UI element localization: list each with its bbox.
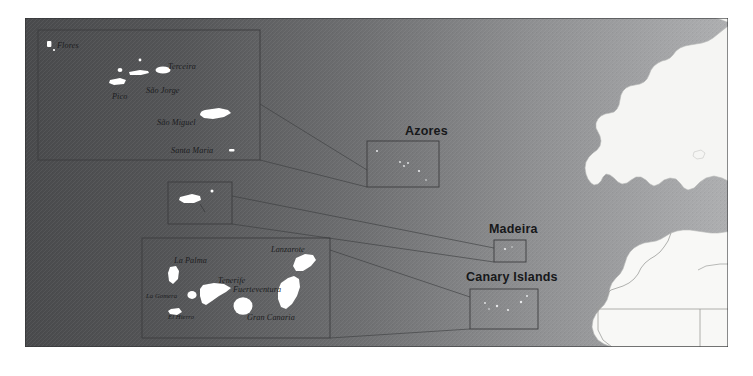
island-la-gomera <box>187 291 196 299</box>
locator-terceira <box>407 162 409 164</box>
locator-gran-canaria <box>507 309 509 311</box>
locator-santa-maria <box>425 179 427 181</box>
locator-graciosa <box>399 161 401 163</box>
locator-fuerteventura <box>520 301 522 303</box>
island-terceira <box>156 66 171 73</box>
island-santa-maria <box>229 149 235 151</box>
map-canvas <box>0 0 753 376</box>
island-graciosa <box>139 59 142 62</box>
island-corvo <box>53 49 55 51</box>
island-gran-canaria <box>234 297 253 315</box>
locator-la-palma <box>484 302 486 304</box>
locator-la-gomera <box>488 308 490 310</box>
macaronesia-map: Azores Madeira Canary Islands Flores Ter… <box>0 0 753 376</box>
locator-flores <box>376 150 378 152</box>
island-flores <box>47 41 51 47</box>
locator-sao-jorge <box>403 165 405 167</box>
locator-sao-miguel <box>418 170 420 172</box>
island-faial <box>118 68 123 72</box>
locator-tenerife <box>496 305 498 307</box>
locator-madeira <box>504 248 506 250</box>
island-porto-santo <box>211 190 214 193</box>
locator-lanzarote <box>526 295 528 297</box>
map-body <box>25 18 753 347</box>
locator-porto-santo <box>511 246 512 247</box>
